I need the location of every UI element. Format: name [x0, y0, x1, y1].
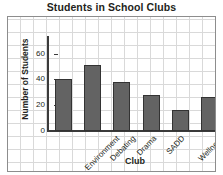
bar-chart-figure: Students in School Clubs Number of Stude… [0, 0, 223, 175]
bar [84, 65, 101, 131]
x-axis-tick-label: SADD [164, 134, 186, 156]
bar [172, 110, 189, 131]
bar [113, 82, 130, 131]
x-axis-tick-label: Drama [135, 134, 158, 157]
y-axis-tick-labels: 0204060 [19, 17, 45, 172]
plot-area [48, 38, 216, 131]
y-axis-tick-label: 20 [23, 101, 45, 109]
y-axis-tick-label: 0 [23, 127, 45, 135]
bar [143, 95, 160, 131]
y-axis-tick-label: 40 [23, 75, 45, 83]
chart-title: Students in School Clubs [0, 1, 223, 14]
x-axis-title: Club [47, 156, 216, 166]
y-axis-tick-label: 60 [23, 50, 45, 58]
bar [201, 97, 216, 131]
chart-panel: Number of Students 0204060 Club Environm… [7, 16, 216, 172]
bar [55, 79, 72, 131]
